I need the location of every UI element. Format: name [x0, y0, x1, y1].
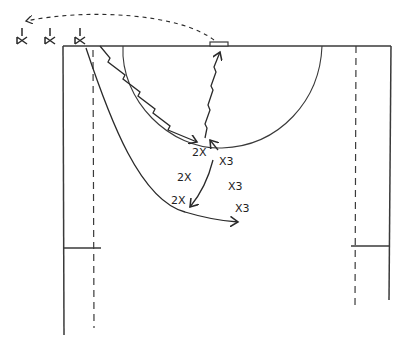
three-point-arc [123, 46, 322, 148]
pass-arrow [26, 14, 214, 40]
player-icon-2 [45, 28, 55, 44]
play-diagram: 2X 2X 2X X3 X3 X3 [0, 0, 405, 346]
left-sideline [63, 46, 64, 335]
defender-x3b: X3 [228, 180, 243, 193]
defender-x3a: X3 [219, 155, 234, 168]
movement-paths [86, 46, 238, 222]
sideline-players [17, 28, 85, 44]
player-icon-3 [75, 28, 85, 44]
court [63, 42, 391, 335]
right-sideline [389, 46, 391, 300]
left-lane-line [93, 50, 94, 328]
defenders: 2X 2X 2X X3 X3 X3 [171, 146, 250, 215]
screen-arrow [210, 140, 218, 150]
defender-x2c: 2X [171, 194, 186, 207]
player-icon-1 [17, 28, 27, 44]
slide-arrow [190, 160, 213, 207]
right-lane-line [355, 46, 356, 308]
defender-x2a: 2X [192, 146, 207, 159]
drive-arrow-zigzag [205, 52, 220, 138]
defender-x2b: 2X [177, 171, 192, 184]
defender-x3c: X3 [235, 202, 250, 215]
cut-arrow-zigzag [100, 46, 197, 142]
backboard [210, 42, 228, 46]
